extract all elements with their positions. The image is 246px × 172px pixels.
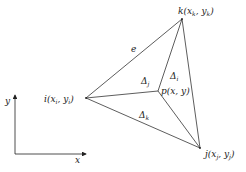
edge-kj [182, 19, 200, 148]
node-i-label: i(xi, yi) [44, 94, 74, 105]
area-delta-k-label: Δk [138, 110, 150, 121]
triangle-element-diagram: k(xk, yk) i(xi, yi) j(xj, yj) p(x, y) e … [0, 0, 246, 172]
node-j-label: j(xj, yj) [203, 149, 235, 161]
edge-e-label: e [131, 44, 136, 54]
area-delta-j-label: Δj [140, 76, 150, 88]
area-delta-i-label: Δi [169, 71, 179, 82]
line-p-i [86, 91, 158, 98]
line-p-j [158, 91, 200, 148]
node-k-label: k(xk, yk) [178, 6, 214, 17]
node-k-dot [181, 18, 183, 20]
figure-caption [55, 160, 175, 168]
y-axis-label: y [4, 96, 11, 106]
node-j-dot [199, 147, 201, 149]
edge-ij [86, 98, 200, 148]
node-p-label: p(x, y) [161, 86, 190, 96]
node-i-dot [85, 97, 87, 99]
